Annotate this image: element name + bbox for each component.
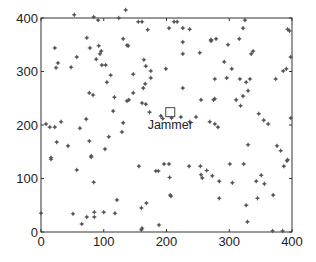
x-tick-label: 400	[281, 234, 303, 249]
data-point	[124, 8, 128, 12]
x-tick-label: 200	[156, 234, 178, 249]
y-tick-label: 0	[31, 225, 38, 240]
x-tick-label: 100	[93, 234, 115, 249]
y-tick-label: 200	[16, 118, 38, 133]
y-tick-label: 300	[16, 64, 38, 79]
scatter-chart: 0100200300400 0100200300400 Jammer	[0, 0, 316, 262]
x-tick-label: 300	[218, 234, 240, 249]
jammer-label: Jammer	[148, 118, 193, 132]
x-tick-label: 0	[37, 234, 44, 249]
data-point	[72, 13, 76, 17]
y-tick-label: 400	[16, 11, 38, 26]
plot-area: 0100200300400 0100200300400 Jammer	[16, 8, 303, 249]
y-tick-label: 100	[16, 171, 38, 186]
